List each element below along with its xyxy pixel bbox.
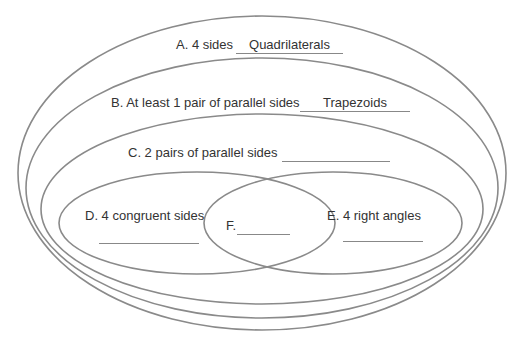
region-c-answer-field[interactable]: [282, 145, 390, 162]
region-d-label: D. 4 congruent sides: [85, 208, 204, 224]
region-b-label: B. At least 1 pair of parallel sides: [111, 95, 300, 111]
region-a-label: A. 4 sides: [176, 37, 233, 53]
region-c-label: C. 2 pairs of parallel sides: [128, 145, 278, 161]
region-a-answer-field[interactable]: Quadrilaterals: [236, 37, 343, 54]
region-d-answer-field[interactable]: [99, 227, 199, 244]
region-e-answer-field[interactable]: [343, 225, 423, 242]
region-b-answer-field[interactable]: Trapezoids: [300, 95, 410, 112]
region-f-answer-field[interactable]: [237, 218, 290, 235]
ellipse-a-quadrilaterals: [18, 16, 506, 330]
region-e-label: E. 4 right angles: [327, 208, 421, 224]
region-f-label: F.: [226, 218, 236, 234]
